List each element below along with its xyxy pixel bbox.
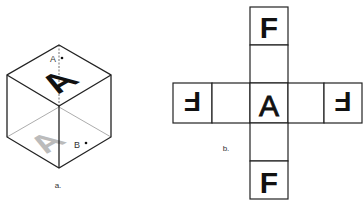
net-letter-far-right-rotated: F: [334, 86, 351, 117]
figure-a-label: a.: [55, 181, 62, 190]
net-letter-top: F: [260, 11, 278, 44]
point-label-b: B: [74, 140, 80, 150]
point-label-a: A: [50, 54, 56, 64]
net-letter-bottom: F: [260, 166, 278, 199]
svg-text:A: A: [19, 126, 73, 157]
net-letter-far-left-rotated: F: [184, 86, 201, 117]
figure-a-cube: A A A B a.: [7, 45, 111, 190]
cube-diagram-canvas: A A A B a. F A F F F b.: [0, 0, 364, 204]
net-letter-center: A: [259, 89, 279, 122]
net-cell-right: [288, 83, 324, 123]
figure-b-net: F A F F F b.: [173, 7, 362, 199]
hidden-edge: [59, 107, 111, 137]
figure-b-label: b.: [223, 144, 230, 153]
point-a-dot: [61, 57, 64, 60]
point-b-dot: [85, 142, 88, 145]
net-cell-upper-middle: [250, 45, 288, 83]
net-cell-lower-middle: [250, 123, 288, 161]
bottom-face-ghost-letter: A: [19, 126, 73, 157]
net-cell-left: [212, 83, 250, 123]
